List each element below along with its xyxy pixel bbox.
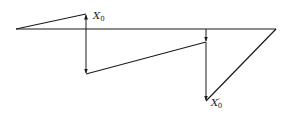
label-x0: X0 xyxy=(92,10,105,23)
triangle-deflection-diagram: X0 X′0 xyxy=(0,0,291,116)
right-diagonal-edge xyxy=(206,29,276,101)
label-x0-prime: X′0 xyxy=(210,97,222,110)
left-wedge-edge xyxy=(16,14,86,29)
middle-slanted-line xyxy=(86,42,206,74)
